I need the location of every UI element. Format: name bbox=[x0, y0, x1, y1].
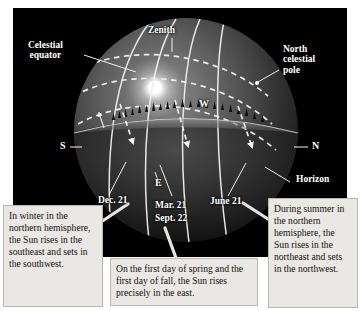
compass-south-label: S bbox=[60, 141, 66, 152]
zenith-label: Zenith bbox=[148, 25, 175, 35]
compass-west-label: W bbox=[199, 99, 209, 110]
celestial-equator-label: Celestial equator bbox=[28, 40, 63, 61]
date-label-june: June 21 bbox=[210, 196, 241, 206]
north-celestial-pole-label: North celestial pole bbox=[283, 44, 315, 75]
date-label-september: Sept. 22 bbox=[155, 213, 187, 223]
horizon-label: Horizon bbox=[296, 174, 329, 184]
celestial-sphere-figure: Zenith Celestial equator North celestial… bbox=[0, 0, 361, 311]
caption-winter: In winter in the northern hemisphere, th… bbox=[3, 205, 103, 307]
caption-equinox: On the first day of spring and the first… bbox=[110, 258, 258, 306]
compass-north-label: N bbox=[312, 141, 319, 152]
caption-summer: During summer in the northern hemisphere… bbox=[268, 198, 358, 308]
date-label-december: Dec. 21 bbox=[98, 195, 128, 205]
date-label-march: Mar. 21 bbox=[155, 200, 186, 210]
sun-disk bbox=[149, 81, 162, 94]
north-celestial-pole-dot bbox=[255, 81, 259, 85]
compass-east-label: E bbox=[155, 178, 162, 189]
